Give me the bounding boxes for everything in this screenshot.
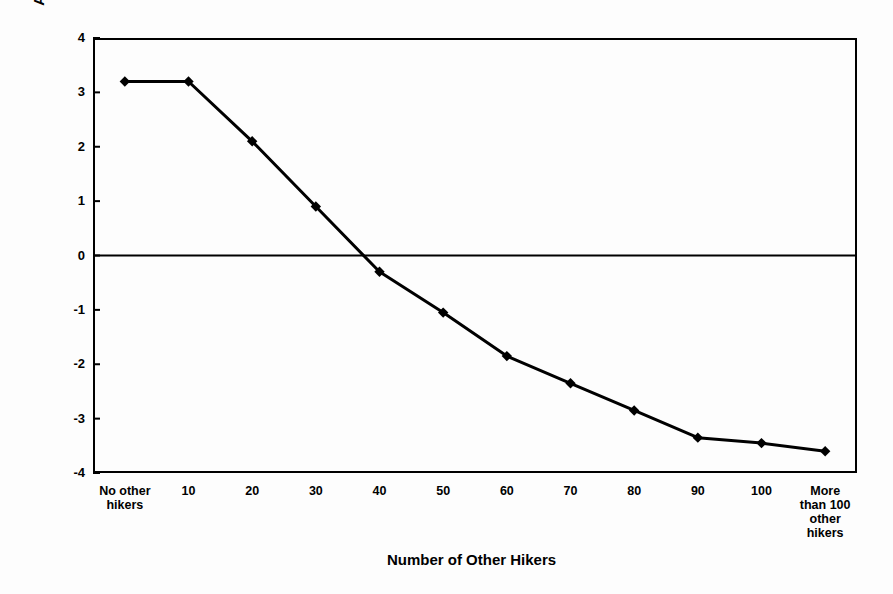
data-point-marker — [693, 432, 703, 442]
chart-page: Acceptability 43210-1-2-3-4 No other hik… — [0, 0, 893, 594]
x-axis-title: Number of Other Hikers — [0, 551, 893, 568]
y-tick-label: 4 — [45, 31, 85, 44]
y-tick-label: -2 — [45, 357, 85, 370]
y-tick-label: -3 — [45, 412, 85, 425]
x-tick-label: More than 100 other hikers — [785, 484, 865, 540]
data-point-marker — [820, 446, 830, 456]
y-tick-label: -4 — [45, 466, 85, 479]
data-point-marker — [565, 378, 575, 388]
x-axis-title-text: Number of Other Hikers — [387, 551, 556, 568]
data-point-marker — [120, 76, 130, 86]
y-tick-label: 3 — [45, 85, 85, 98]
data-series-line — [125, 82, 825, 452]
data-point-marker — [629, 405, 639, 415]
y-tick-label: -1 — [45, 303, 85, 316]
data-point-markers — [120, 76, 831, 456]
y-tick-label: 1 — [45, 194, 85, 207]
y-tick-label: 0 — [45, 249, 85, 262]
y-tick-label: 2 — [45, 140, 85, 153]
data-point-marker — [756, 438, 766, 448]
